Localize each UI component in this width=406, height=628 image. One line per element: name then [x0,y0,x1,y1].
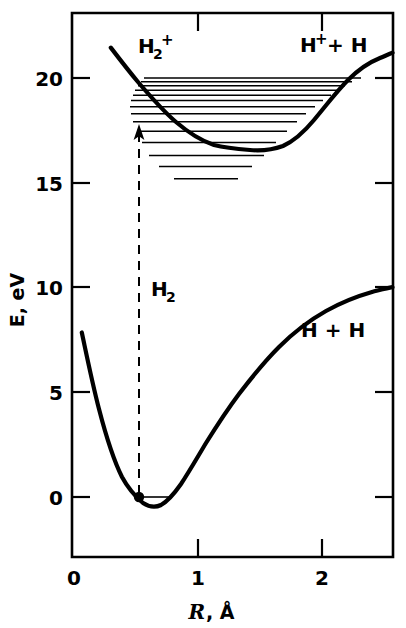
h-plus-label-superscript: + [315,30,328,48]
y-tick-label-5: 5 [49,381,63,405]
y-tick-label-15: 15 [35,172,63,196]
h-plus-plus-h-label: H + + H [300,30,367,57]
x-axis-title-units: , Å [206,600,235,623]
h2-plus-label-superscript: + [161,31,174,49]
potential-energy-diagram: 20 15 10 5 0 E, eV 0 1 2 R , Å H 2 + H +… [0,0,406,628]
y-axis-ticks [72,78,393,497]
x-tick-label-1: 1 [191,566,205,590]
h2-label: H 2 [151,277,176,305]
y-tick-label-20: 20 [35,67,63,91]
h-plus-label-rest: + H [327,33,367,57]
h2-plus-potential-curve [111,48,393,151]
y-tick-label-10: 10 [35,276,63,300]
transition-origin-dot [134,492,144,502]
x-axis-title: R , Å [187,600,234,624]
x-axis-title-symbol: R [187,600,205,624]
h2-label-subscript: 2 [166,289,176,305]
y-tick-label-0: 0 [49,486,63,510]
plot-svg: 20 15 10 5 0 E, eV 0 1 2 R , Å H 2 + H +… [0,0,406,628]
h2-plus-label: H 2 + [138,31,174,62]
vibrational-levels-group [130,78,361,179]
y-axis-title: E, eV [6,273,28,328]
x-tick-label-2: 2 [315,566,329,590]
x-tick-label-0: 0 [67,566,81,590]
h-plus-h-neutral-label: H + H [301,318,365,342]
